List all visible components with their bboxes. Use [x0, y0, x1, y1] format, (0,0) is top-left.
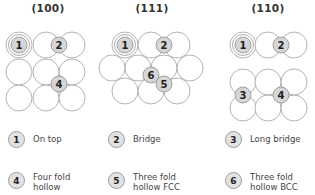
legend-item-4: 4Four fold hollow: [8, 172, 70, 192]
site-marker-1: 1: [233, 35, 254, 56]
site-marker-4: 4: [51, 76, 67, 92]
site-marker-1: 1: [9, 35, 30, 56]
legend-item-5: 5Three fold hollow FCC: [108, 172, 180, 192]
adsorption-sites-diagram: 12412651234: [0, 0, 315, 125]
surface-atom-circle: [112, 78, 138, 104]
svg-text:2: 2: [161, 40, 168, 51]
legend-marker-icon: 6: [225, 172, 242, 189]
legend-marker-icon: 3: [225, 131, 242, 148]
surface-atom-circle: [177, 55, 203, 81]
svg-text:1: 1: [16, 40, 23, 51]
site-marker-4: 4: [273, 87, 289, 103]
legend-label: Three fold hollow BCC: [250, 172, 298, 192]
legend-label: Four fold hollow: [33, 172, 70, 192]
legend-label: Three fold hollow FCC: [133, 172, 180, 192]
site-marker-1: 1: [115, 35, 136, 56]
svg-text:4: 4: [278, 90, 285, 101]
legend-marker-icon: 5: [108, 172, 125, 189]
svg-text:2: 2: [56, 40, 63, 51]
svg-text:1: 1: [122, 40, 129, 51]
surface-atom-circle: [6, 59, 32, 85]
legend-marker-icon: 4: [8, 172, 25, 189]
legend-item-2: 2Bridge: [108, 131, 161, 148]
svg-text:3: 3: [240, 90, 247, 101]
site-marker-2: 2: [51, 37, 67, 53]
svg-text:4: 4: [56, 79, 63, 90]
surface-atom-circle: [6, 85, 32, 111]
svg-text:5: 5: [161, 79, 168, 90]
legend-item-1: 1On top: [8, 131, 62, 148]
legend-marker-icon: 1: [8, 131, 25, 148]
site-marker-2: 2: [273, 37, 289, 53]
site-marker-3: 3: [235, 87, 251, 103]
legend-item-6: 6Three fold hollow BCC: [225, 172, 298, 192]
svg-text:6: 6: [148, 70, 155, 81]
svg-text:1: 1: [240, 40, 247, 51]
svg-text:2: 2: [278, 40, 285, 51]
legend-item-3: 3Long bridge: [225, 131, 301, 148]
surface-atom-circle: [99, 55, 125, 81]
site-marker-2: 2: [156, 37, 172, 53]
legend-label: On top: [33, 134, 62, 144]
legend-label: Long bridge: [250, 134, 301, 144]
legend-marker-icon: 2: [108, 131, 125, 148]
site-marker-5: 5: [156, 76, 172, 92]
legend-label: Bridge: [133, 134, 161, 144]
